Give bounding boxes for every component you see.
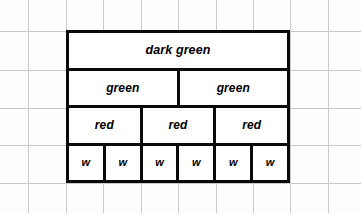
model-row-w: w w w w w w	[69, 146, 287, 181]
cell-label: dark green	[146, 44, 211, 57]
cell-label: w	[266, 157, 275, 168]
model-cell-red: red	[216, 108, 287, 143]
fraction-strip-model: dark green green green red red red	[66, 30, 290, 183]
model-cell-w: w	[253, 146, 287, 181]
grid-line-vertical	[328, 0, 329, 213]
cell-label: green	[106, 82, 139, 94]
model-cell-red: red	[69, 108, 143, 143]
cell-label: w	[155, 157, 164, 168]
model-cell-dark-green: dark green	[69, 33, 287, 68]
cell-label: red	[169, 119, 188, 131]
diagram-canvas: dark green green green red red red	[0, 0, 361, 213]
cell-label: w	[118, 157, 127, 168]
model-cell-green: green	[180, 71, 288, 106]
cell-label: red	[242, 119, 261, 131]
grid-line-vertical	[290, 0, 291, 213]
model-row-dark-green: dark green	[69, 33, 287, 71]
model-cell-w: w	[69, 146, 106, 181]
model-cell-w: w	[143, 146, 180, 181]
grid-line-vertical	[28, 0, 29, 213]
model-cell-w: w	[106, 146, 143, 181]
grid-line-horizontal	[0, 183, 361, 184]
cell-label: w	[82, 157, 91, 168]
model-row-green: green green	[69, 71, 287, 109]
cell-label: red	[95, 119, 114, 131]
model-cell-green: green	[69, 71, 180, 106]
model-cell-red: red	[143, 108, 217, 143]
model-cell-w: w	[216, 146, 253, 181]
cell-label: w	[229, 157, 238, 168]
cell-label: green	[217, 82, 250, 94]
model-row-red: red red red	[69, 108, 287, 146]
model-cell-w: w	[179, 146, 216, 181]
cell-label: w	[192, 157, 201, 168]
